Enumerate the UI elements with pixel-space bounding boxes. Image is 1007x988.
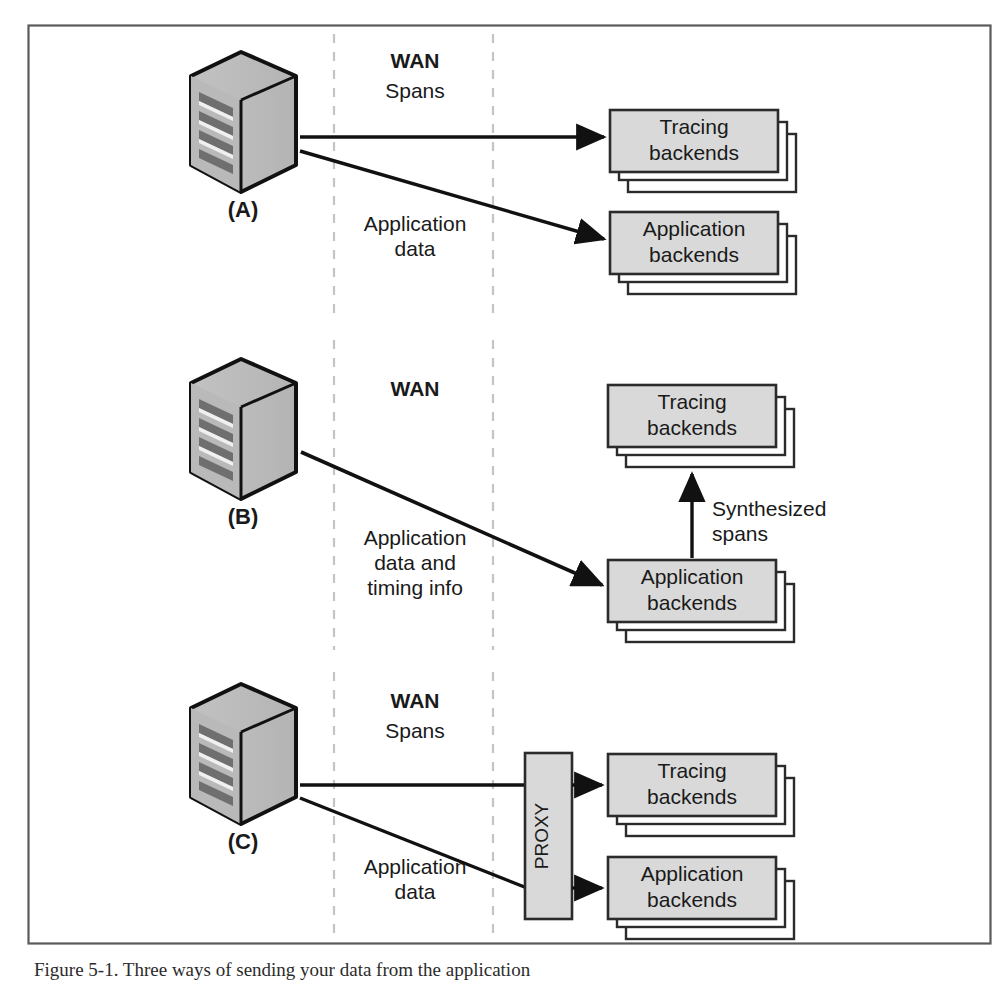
- tracing-backends-a-line2: backends: [649, 141, 739, 164]
- wan-subtitle-c: Spans: [385, 719, 445, 742]
- application-backends-c: Application backends: [608, 857, 794, 939]
- wan-subtitle-a: Spans: [385, 79, 445, 102]
- server-icon-a: [191, 52, 296, 192]
- server-label-a: (A): [228, 197, 259, 222]
- edge-label-application-data-c-line1: Application: [364, 855, 467, 878]
- edge-label-app-data-timing-b-line3: timing info: [367, 576, 463, 599]
- edge-label-application-data-c-line2: data: [395, 880, 436, 903]
- application-backends-a-line1: Application: [643, 217, 746, 240]
- wan-title-b: WAN: [391, 377, 440, 400]
- server-label-b: (B): [228, 504, 259, 529]
- edge-label-synthesized-spans-line1: Synthesized: [712, 497, 826, 520]
- wan-title-c: WAN: [391, 689, 440, 712]
- application-backends-a-line2: backends: [649, 243, 739, 266]
- edge-label-app-data-timing-b-line2: data and: [374, 551, 456, 574]
- tracing-backends-b: Tracing backends: [608, 385, 794, 467]
- tracing-backends-b-line2: backends: [647, 416, 737, 439]
- application-backends-b-line1: Application: [641, 565, 744, 588]
- tracing-backends-a-line1: Tracing: [659, 115, 728, 138]
- figure-frame: [29, 26, 991, 944]
- wan-title-a: WAN: [391, 49, 440, 72]
- application-backends-a: Application backends: [610, 212, 796, 294]
- server-label-c: (C): [228, 829, 259, 854]
- tracing-backends-a: Tracing backends: [610, 110, 796, 192]
- proxy-label-c: PROXY: [531, 802, 552, 869]
- tracing-backends-b-line1: Tracing: [657, 390, 726, 413]
- diagram-canvas: (A) WAN Spans Application data Tracing b…: [0, 0, 1007, 988]
- application-backends-b-line2: backends: [647, 591, 737, 614]
- server-icon-b: [191, 359, 296, 499]
- application-backends-c-line2: backends: [647, 888, 737, 911]
- tracing-backends-c-line1: Tracing: [657, 759, 726, 782]
- edge-label-synthesized-spans-line2: spans: [712, 522, 768, 545]
- edge-label-application-data-a-line2: data: [395, 237, 436, 260]
- edge-label-application-data-a-line1: Application: [364, 212, 467, 235]
- proxy-box-c: PROXY: [525, 753, 572, 919]
- application-backends-b: Application backends: [608, 560, 794, 642]
- figure-root: (A) WAN Spans Application data Tracing b…: [0, 0, 1007, 988]
- edge-label-app-data-timing-b-line1: Application: [364, 526, 467, 549]
- server-icon-c: [191, 684, 296, 824]
- figure-caption: Figure 5-1. Three ways of sending your d…: [34, 958, 994, 982]
- application-backends-c-line1: Application: [641, 862, 744, 885]
- tracing-backends-c-line2: backends: [647, 785, 737, 808]
- tracing-backends-c: Tracing backends: [608, 754, 794, 836]
